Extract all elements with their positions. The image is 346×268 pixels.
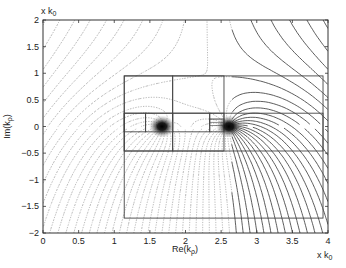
x-tick-label: 4	[316, 236, 340, 246]
contour-lines	[43, 20, 328, 233]
y-tick-label: 2	[13, 15, 39, 25]
x-tick-label: 3.5	[280, 236, 304, 246]
y-tick-label: −1.5	[13, 201, 39, 211]
subdivision-rect	[124, 113, 145, 132]
x-tick-label: 1	[102, 236, 126, 246]
contour-chart	[0, 0, 346, 268]
contour-dotted	[43, 20, 232, 233]
plot-frame	[43, 20, 328, 233]
x-tick-label: 2.5	[209, 236, 233, 246]
x-tick-label: 1.5	[138, 236, 162, 246]
x-unit-label: x k0	[317, 250, 332, 263]
y-tick-label: −0.5	[13, 148, 39, 158]
subdivision-rect	[173, 113, 210, 132]
pole-1-marker	[149, 116, 175, 138]
y-axis-label: Im(kρ)	[2, 114, 15, 138]
x-tick-label: 0.5	[67, 236, 91, 246]
y-tick-label: 0.5	[13, 95, 39, 105]
contour-solid	[232, 20, 328, 233]
y-tick-label: 0	[13, 122, 39, 132]
y-unit-label: x k0	[41, 6, 56, 19]
y-tick-label: 1.5	[13, 42, 39, 52]
pole-2-marker	[216, 116, 242, 138]
y-tick-label: 1	[13, 68, 39, 78]
x-axis-label: Re(kρ)	[172, 244, 198, 257]
singularities	[149, 116, 242, 138]
y-tick-label: −1	[13, 175, 39, 185]
axis-ticks	[43, 20, 328, 233]
y-tick-label: −2	[13, 228, 39, 238]
x-tick-label: 3	[245, 236, 269, 246]
